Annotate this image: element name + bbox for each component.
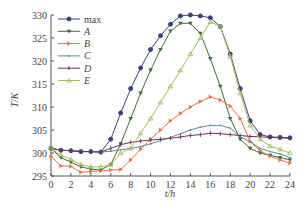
triangle-down-marker-icon — [208, 57, 213, 61]
triangle-down-marker-icon — [148, 69, 153, 73]
legend-label: E — [83, 75, 90, 86]
x-axis-label: t/h — [165, 188, 176, 199]
plus-marker-icon — [140, 139, 142, 143]
dot-marker-icon — [180, 133, 182, 135]
x-tick-label: 18 — [225, 179, 235, 190]
x-tick-label: 14 — [185, 179, 195, 190]
x-tick-label: 4 — [88, 179, 93, 190]
plus-marker-icon — [199, 132, 201, 136]
circle-marker-icon — [188, 13, 192, 17]
circle-marker-icon — [178, 14, 182, 18]
dot-marker-icon — [289, 157, 291, 159]
dot-marker-icon — [199, 126, 201, 128]
x-tick-label: 24 — [285, 179, 295, 190]
x-tick-label: 20 — [245, 179, 255, 190]
y-tick-label: 300 — [32, 148, 47, 159]
triangle-right-marker-icon — [219, 98, 223, 103]
legend-label: A — [83, 26, 91, 37]
triangle-right-marker-icon — [189, 105, 193, 110]
triangle-right-marker-icon — [199, 99, 203, 104]
dot-marker-icon — [279, 153, 281, 155]
y-tick-label: 320 — [32, 56, 47, 67]
circle-marker-icon — [149, 48, 153, 52]
x-tick-label: 22 — [265, 179, 275, 190]
legend-item-C: C — [58, 50, 91, 61]
triangle-right-marker-icon — [209, 95, 213, 100]
dot-marker-icon — [209, 125, 211, 127]
legend-label: B — [84, 38, 90, 49]
triangle-down-marker-icon — [288, 158, 293, 162]
plus-marker-icon — [68, 66, 70, 70]
legend-item-B: B — [58, 38, 90, 49]
series-C — [50, 125, 291, 159]
triangle-right-marker-icon — [109, 168, 113, 173]
triangle-right-marker-icon — [67, 41, 71, 46]
triangle-right-marker-icon — [69, 164, 73, 169]
circle-marker-icon — [198, 14, 202, 18]
circle-marker-icon — [139, 66, 143, 70]
x-tick-label: 16 — [205, 179, 215, 190]
triangle-down-marker-icon — [228, 117, 233, 121]
plus-marker-icon — [189, 133, 191, 137]
triangle-right-marker-icon — [79, 170, 83, 175]
dot-marker-icon — [259, 148, 261, 150]
x-tick-label: 6 — [108, 179, 113, 190]
triangle-down-marker-icon — [158, 48, 163, 52]
series-line — [51, 133, 290, 152]
dot-marker-icon — [190, 129, 192, 131]
circle-marker-icon — [109, 137, 113, 141]
circle-marker-icon — [159, 34, 163, 38]
circle-marker-icon — [169, 22, 173, 26]
x-tick-label: 8 — [128, 179, 133, 190]
y-tick-label: 305 — [32, 125, 47, 136]
plus-marker-icon — [209, 131, 211, 135]
legend-label: C — [84, 50, 91, 61]
dot-marker-icon — [150, 143, 152, 145]
legend-label: D — [83, 63, 92, 74]
plus-marker-icon — [110, 146, 112, 150]
series-line — [51, 97, 290, 172]
x-tick-label: 10 — [146, 179, 156, 190]
plus-marker-icon — [179, 135, 181, 139]
dot-marker-icon — [68, 55, 70, 57]
dot-marker-icon — [269, 151, 271, 153]
y-tick-label: 310 — [32, 102, 47, 113]
legend-item-D: D — [58, 63, 92, 74]
legend-item-max: max — [58, 14, 101, 25]
circle-marker-icon — [129, 87, 133, 91]
x-tick-label: 0 — [49, 179, 54, 190]
series-B — [49, 95, 292, 175]
temperature-line-chart: 2953003053103153203253300246810121416182… — [0, 0, 306, 211]
triangle-down-marker-icon — [128, 117, 133, 121]
x-tick-label: 2 — [68, 179, 73, 190]
triangle-down-marker-icon — [218, 85, 223, 89]
plus-marker-icon — [219, 131, 221, 135]
y-axis-label: T/K — [9, 91, 20, 107]
y-tick-label: 325 — [32, 33, 47, 44]
plus-marker-icon — [229, 132, 231, 136]
legend-label: max — [84, 14, 101, 25]
triangle-right-marker-icon — [59, 164, 63, 169]
y-tick-label: 330 — [32, 10, 47, 21]
circle-marker-icon — [67, 17, 71, 21]
triangle-down-marker-icon — [138, 92, 143, 96]
legend-item-A: A — [58, 26, 91, 37]
legend-item-E: E — [58, 75, 90, 86]
dot-marker-icon — [229, 127, 231, 129]
y-tick-label: 315 — [32, 79, 47, 90]
y-tick-label: 295 — [32, 171, 47, 182]
plus-marker-icon — [249, 134, 251, 138]
triangle-down-marker-icon — [168, 30, 173, 34]
dot-marker-icon — [219, 125, 221, 127]
circle-marker-icon — [119, 111, 123, 115]
dot-marker-icon — [140, 146, 142, 148]
dot-marker-icon — [249, 141, 251, 143]
plus-marker-icon — [130, 140, 132, 144]
legend: maxABCDE — [58, 14, 101, 87]
